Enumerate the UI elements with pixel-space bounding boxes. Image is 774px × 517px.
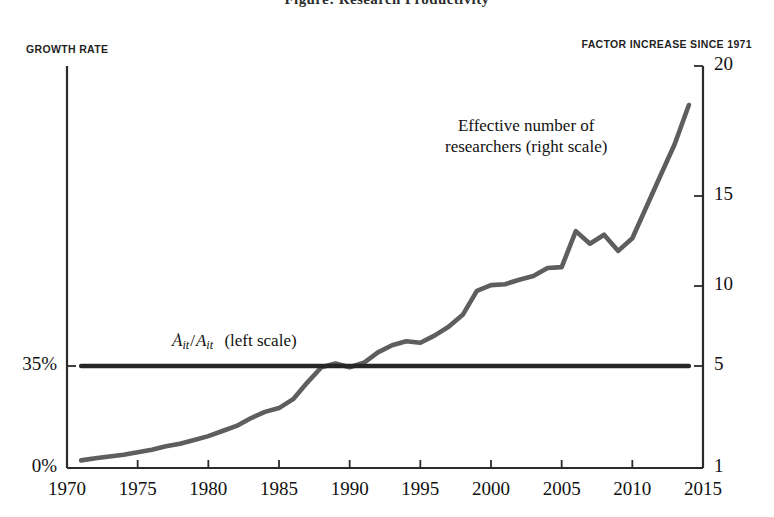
x-axis-label: 2015 xyxy=(663,478,743,500)
x-axis-label: 2005 xyxy=(522,478,602,500)
y-axis-label-right: 20 xyxy=(714,53,733,75)
x-axis-label: 2010 xyxy=(592,478,672,500)
axis-lines xyxy=(67,66,703,468)
x-axis-label: 1995 xyxy=(380,478,460,500)
plot-svg xyxy=(0,0,774,517)
a-dot-symbol: A˙ xyxy=(172,331,182,350)
x-axis-label: 1975 xyxy=(98,478,178,500)
y-axis-label-left: 0% xyxy=(32,455,57,477)
y-axis-label-right: 1 xyxy=(714,455,724,477)
y-axis-label-left: 35% xyxy=(22,353,57,375)
dot-accent: ˙ xyxy=(175,329,180,349)
y-axis-label-right: 10 xyxy=(714,273,733,295)
annotation-left-scale: (left scale) xyxy=(224,331,296,350)
fraction-slash: / xyxy=(189,331,196,350)
series-researchers xyxy=(81,105,689,460)
y-axis-label-right: 15 xyxy=(714,183,733,205)
chart-canvas: Figure: Research Productivity GROWTH RAT… xyxy=(0,0,774,517)
data-series xyxy=(81,105,689,460)
x-axis-label: 1970 xyxy=(27,478,107,500)
a-subscript: it xyxy=(206,338,213,352)
annotation-researchers-line1: Effective number of xyxy=(445,115,607,136)
y-axis-label-right: 5 xyxy=(714,353,724,375)
x-axis-label: 1990 xyxy=(310,478,390,500)
axis-ticks xyxy=(67,66,703,468)
x-axis-label: 2000 xyxy=(451,478,531,500)
x-axis-label: 1980 xyxy=(168,478,248,500)
a-symbol: A xyxy=(196,331,206,350)
annotation-researchers: Effective number of researchers (right s… xyxy=(445,115,607,158)
x-axis-label: 1985 xyxy=(239,478,319,500)
annotation-growth-rate: A˙it/Ait (left scale) xyxy=(172,330,297,354)
annotation-researchers-line2: researchers (right scale) xyxy=(445,136,607,157)
